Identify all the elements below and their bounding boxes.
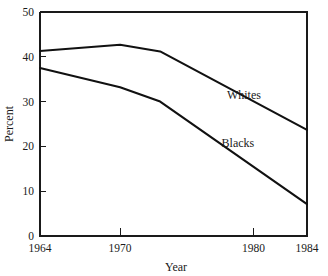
series-line-blacks <box>40 68 307 204</box>
x-tick-label-1964: 1964 <box>29 242 52 254</box>
series-line-whites <box>40 45 307 130</box>
line-chart-canvas: 0 10 20 30 40 50 1964 1970 1980 1984 Yea… <box>0 0 328 276</box>
x-axis-ticks <box>120 228 254 236</box>
y-tick-label-20: 20 <box>23 140 35 152</box>
chart-figure: 0 10 20 30 40 50 1964 1970 1980 1984 Yea… <box>0 0 328 276</box>
x-tick-label-1980: 1980 <box>242 242 265 254</box>
y-tick-label-40: 40 <box>23 51 35 63</box>
series-label-blacks: Blacks <box>222 136 255 150</box>
x-axis-tick-labels: 1964 1970 1980 1984 <box>29 242 319 254</box>
y-tick-label-10: 10 <box>23 185 35 197</box>
y-axis-ticks <box>40 12 46 236</box>
x-tick-label-1984: 1984 <box>296 242 319 254</box>
y-axis-title: Percent <box>2 105 16 142</box>
y-tick-label-0: 0 <box>28 230 34 242</box>
plot-frame <box>40 12 307 236</box>
y-axis-tick-labels: 0 10 20 30 40 50 <box>23 6 35 242</box>
y-tick-label-30: 30 <box>23 96 35 108</box>
y-tick-label-50: 50 <box>23 6 35 18</box>
series-label-whites: Whites <box>227 88 261 102</box>
x-axis-title: Year <box>165 260 187 274</box>
x-tick-label-1970: 1970 <box>109 242 132 254</box>
